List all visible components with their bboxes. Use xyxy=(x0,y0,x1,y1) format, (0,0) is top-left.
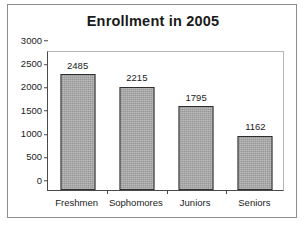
bar xyxy=(60,74,95,190)
y-axis-tick-label: 500 xyxy=(26,152,48,162)
bar-value-label: 1795 xyxy=(186,93,207,103)
y-axis-tick-label: 3000 xyxy=(21,36,48,46)
bar-group: 2485 xyxy=(48,52,107,190)
x-axis-category-label: Juniors xyxy=(166,198,225,208)
bar-group: 1162 xyxy=(226,52,285,190)
y-axis-tick-label: 1000 xyxy=(21,129,48,139)
bar xyxy=(119,87,154,190)
x-axis-category-label: Sophomores xyxy=(106,198,165,208)
chart-title: Enrollment in 2005 xyxy=(8,13,298,29)
bar-value-label: 2485 xyxy=(67,61,88,71)
bar-group: 1795 xyxy=(167,52,226,190)
y-axis-tick-label: 0 xyxy=(37,176,48,186)
x-axis-tick xyxy=(167,190,168,194)
x-axis-category-label: Freshmen xyxy=(47,198,106,208)
y-axis-tick-label: 2500 xyxy=(21,59,48,69)
y-axis-tick-label: 2000 xyxy=(21,82,48,92)
plot-area: 050010001500200025003000 248522151795116… xyxy=(47,51,284,191)
x-axis-category-label: Seniors xyxy=(225,198,284,208)
bar xyxy=(238,136,273,190)
chart-figure: Enrollment in 2005 050010001500200025003… xyxy=(7,4,297,218)
x-axis-tick xyxy=(107,190,108,194)
bar xyxy=(179,106,214,190)
bar-group: 2215 xyxy=(107,52,166,190)
x-axis-tick xyxy=(226,190,227,194)
bar-value-label: 1162 xyxy=(245,122,265,132)
bar-value-label: 2215 xyxy=(126,73,147,83)
y-axis-tick-label: 1500 xyxy=(21,106,48,116)
